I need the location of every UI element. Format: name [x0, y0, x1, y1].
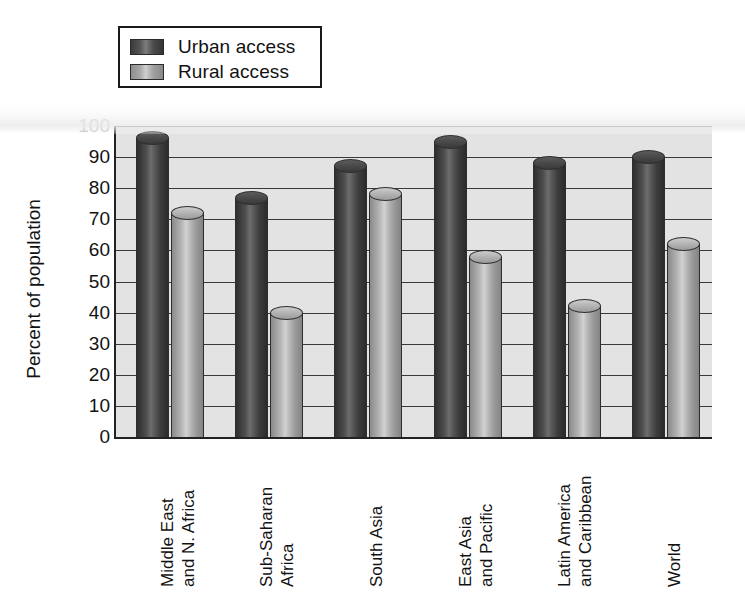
x-label-line-1: Sub-Saharan	[257, 487, 276, 587]
legend-swatch-rural	[130, 64, 164, 80]
x-label-line-1: Middle East	[158, 498, 177, 587]
y-tick-label-90: 90	[89, 147, 110, 166]
bar-group-3	[334, 126, 402, 437]
x-axis-category-labels: Middle Eastand N. AfricaSub-SaharanAfric…	[114, 441, 710, 591]
bar-rural-4[interactable]	[469, 257, 502, 437]
bar-cap-icon	[334, 159, 367, 173]
bars-layer	[116, 126, 712, 437]
legend-label-rural: Rural access	[178, 61, 289, 83]
y-tick-label-20: 20	[89, 365, 110, 384]
y-tick-label-100: 100	[78, 116, 110, 135]
bar-cap-icon	[369, 187, 402, 201]
chart-legend: Urban access Rural access	[118, 26, 322, 88]
x-label-line-1: East Asia	[456, 516, 475, 587]
x-label-line-1: World	[665, 543, 684, 587]
y-axis-tick-labels: 1009080706050403020100	[62, 112, 110, 452]
bar-rural-3[interactable]	[369, 194, 402, 437]
y-tick-label-0: 0	[99, 427, 110, 446]
bar-rural-5[interactable]	[568, 306, 601, 437]
y-tick-label-10: 10	[89, 396, 110, 415]
bar-group-5	[533, 126, 601, 437]
y-axis-title: Percent of population	[23, 169, 45, 409]
x-label-line-2: and Pacific	[476, 504, 497, 587]
bar-urban-6[interactable]	[632, 157, 665, 437]
bar-cap-icon	[434, 135, 467, 149]
legend-label-urban: Urban access	[178, 36, 295, 58]
y-tick-label-50: 50	[89, 272, 110, 291]
legend-swatch-urban	[130, 39, 164, 55]
y-tick-label-80: 80	[89, 178, 110, 197]
bar-rural-2[interactable]	[270, 313, 303, 437]
bar-group-6	[632, 126, 700, 437]
bar-rural-1[interactable]	[171, 213, 204, 437]
y-tick-label-60: 60	[89, 240, 110, 259]
x-label-line-1: South Asia	[367, 506, 386, 587]
bar-cap-icon	[568, 299, 601, 313]
bar-cap-icon	[667, 237, 700, 251]
y-tick-label-70: 70	[89, 209, 110, 228]
y-tick-label-30: 30	[89, 334, 110, 353]
bar-urban-2[interactable]	[235, 198, 268, 437]
bar-cap-icon	[136, 131, 169, 145]
bar-cap-icon	[469, 250, 502, 264]
bar-cap-icon	[632, 150, 665, 164]
legend-item-rural-access: Rural access	[130, 59, 320, 84]
bar-urban-1[interactable]	[136, 138, 169, 437]
y-tick-label-40: 40	[89, 303, 110, 322]
bar-group-4	[434, 126, 502, 437]
bar-group-1	[136, 126, 204, 437]
bar-urban-3[interactable]	[334, 166, 367, 437]
x-label-line-2: and N. Africa	[178, 490, 199, 587]
x-label-line-2: and Caribbean	[575, 475, 596, 587]
bar-rural-6[interactable]	[667, 244, 700, 437]
x-label-line-2: Africa	[277, 487, 298, 587]
bar-urban-4[interactable]	[434, 142, 467, 437]
bar-cap-icon	[533, 156, 566, 170]
bar-cap-icon	[235, 191, 268, 205]
bar-cap-icon	[270, 306, 303, 320]
x-label-line-1: Latin America	[555, 484, 574, 587]
bar-urban-5[interactable]	[533, 163, 566, 437]
bar-group-2	[235, 126, 303, 437]
bar-cap-icon	[171, 206, 204, 220]
plot-area	[114, 126, 712, 439]
x-label-6: World	[664, 441, 745, 463]
bar-chart-figure: Urban access Rural access Percent of pop…	[0, 0, 745, 598]
legend-item-urban-access: Urban access	[130, 34, 320, 59]
